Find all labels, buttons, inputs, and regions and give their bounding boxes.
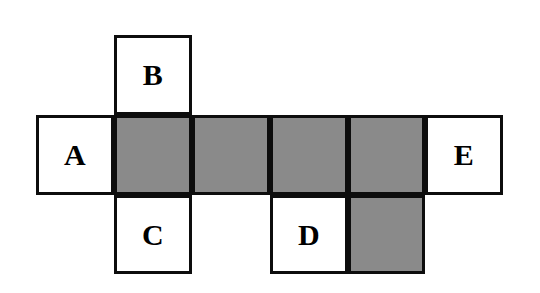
net-square-shaded-r2c2 (114, 115, 192, 195)
net-square-shaded-r2c3 (192, 115, 270, 195)
net-square-shaded-r2c5 (348, 115, 425, 195)
net-square-label-e: E (454, 140, 475, 170)
net-square-shaded-r3c5 (348, 195, 425, 274)
net-square-label-b: B (143, 60, 164, 90)
cube-net-figure: B A E C D (0, 0, 540, 293)
net-square-b: B (114, 35, 192, 115)
net-square-shaded-r2c4 (270, 115, 348, 195)
net-square-c: C (114, 195, 192, 274)
net-square-label-d: D (298, 220, 320, 250)
net-square-e: E (425, 115, 503, 195)
net-square-a: A (36, 115, 114, 195)
net-square-label-a: A (64, 140, 86, 170)
net-square-label-c: C (142, 220, 164, 250)
net-square-d: D (270, 195, 348, 274)
